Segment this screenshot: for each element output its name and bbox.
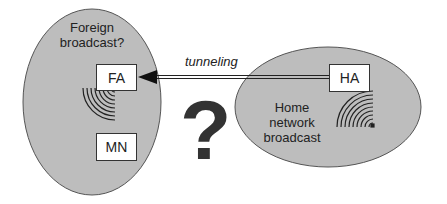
foreign-label-line2: broadcast? [46, 35, 138, 50]
ha-label: HA [340, 70, 359, 86]
mn-node: MN [96, 133, 137, 161]
question-mark-icon: ? [180, 88, 231, 172]
foreign-network-label: Foreign broadcast? [46, 20, 138, 50]
home-label-line1: Home [262, 100, 322, 115]
foreign-label-line1: Foreign [46, 20, 138, 35]
ha-node: HA [329, 64, 370, 92]
tunneling-label: tunneling [185, 54, 238, 69]
mn-label: MN [106, 139, 128, 155]
fa-label: FA [108, 70, 125, 86]
home-label-line3: broadcast [262, 130, 322, 145]
home-network-label: Home network broadcast [262, 100, 322, 145]
fa-node: FA [96, 64, 137, 91]
home-label-line2: network [262, 115, 322, 130]
